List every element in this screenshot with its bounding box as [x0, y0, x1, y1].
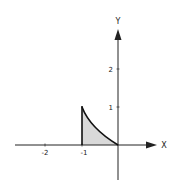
shaded-region — [82, 107, 118, 145]
x-tick-label-minus-2: -2 — [42, 149, 49, 157]
x-tick-label-minus-1: -1 — [81, 149, 88, 157]
y-tick-label-1: 1 — [109, 104, 113, 112]
y-axis-label: Y — [115, 17, 121, 26]
x-axis-label: X — [161, 141, 167, 150]
x-axis-arrow-icon — [146, 142, 157, 149]
plot-canvas: -2 -1 1 2 X Y — [0, 0, 177, 182]
y-axis-arrow-icon — [115, 29, 122, 40]
y-tick-label-2: 2 — [109, 66, 113, 74]
